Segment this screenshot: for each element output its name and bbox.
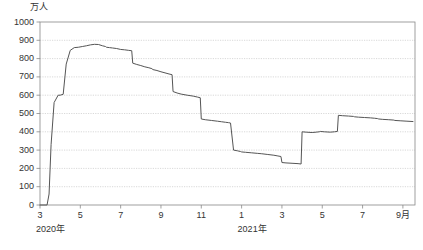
axis-tick-marks	[37, 22, 403, 209]
x-tick-label: 3	[37, 211, 42, 220]
y-tick-label: 300	[0, 146, 34, 155]
y-tick-label: 600	[0, 91, 34, 100]
year-label: 2020年	[36, 225, 65, 234]
chart-container: 万人 10009008007006005004003002001000 3579…	[0, 0, 423, 250]
x-tick-label: 3	[279, 211, 284, 220]
x-tick-label: 5	[78, 211, 83, 220]
x-tick-label: 1	[239, 211, 244, 220]
data-series-line	[40, 44, 413, 205]
x-tick-label: 5	[320, 211, 325, 220]
gridlines	[40, 40, 415, 186]
x-tick-label: 7	[360, 211, 365, 220]
y-tick-label: 700	[0, 72, 34, 81]
y-tick-label: 800	[0, 54, 34, 63]
y-tick-label: 400	[0, 127, 34, 136]
y-tick-label: 500	[0, 109, 34, 118]
y-tick-label: 200	[0, 164, 34, 173]
y-tick-label: 100	[0, 182, 34, 191]
year-label: 2021年	[238, 225, 267, 234]
x-tick-label: 9	[158, 211, 163, 220]
x-tick-label: 9月	[396, 211, 410, 220]
x-tick-label: 11	[197, 211, 206, 220]
x-tick-label: 7	[118, 211, 123, 220]
y-tick-label: 900	[0, 36, 34, 45]
y-tick-label: 1000	[0, 18, 34, 27]
y-tick-label: 0	[0, 201, 34, 210]
